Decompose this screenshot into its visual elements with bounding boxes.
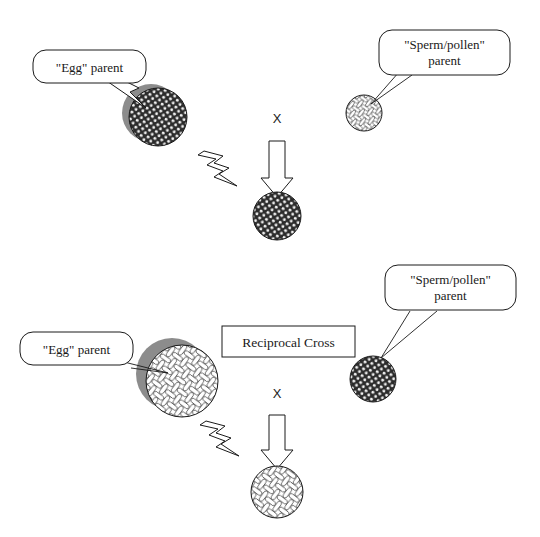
egg-parent-circle-bottom[interactable] <box>146 345 218 417</box>
cross-top: "Egg" parent "Sperm/pollen" parent X <box>33 30 510 240</box>
reciprocal-cross-diagram: "Egg" parent "Sperm/pollen" parent X "Eg… <box>0 0 540 537</box>
offspring-circle-bottom[interactable] <box>251 466 303 518</box>
cross-symbol-bottom: X <box>273 386 282 401</box>
egg-parent-circle-top[interactable] <box>129 88 187 146</box>
sperm-parent-callout-label1-top: "Sperm/pollen" <box>404 37 485 52</box>
sperm-parent-callout-label1-bottom: "Sperm/pollen" <box>410 272 491 287</box>
sperm-parent-callout-label2-top: parent <box>428 53 461 68</box>
offspring-arrow-top <box>261 141 293 197</box>
cross-bottom: "Egg" parent "Sperm/pollen" parent Recip… <box>20 265 516 518</box>
egg-parent-callout-label-bottom: "Egg" parent <box>43 342 111 357</box>
sperm-parent-circle-bottom[interactable] <box>350 356 396 402</box>
sperm-parent-callout-tail-top <box>371 72 412 104</box>
egg-parent-callout-label-top: "Egg" parent <box>56 60 124 75</box>
lightning-bolt-top <box>198 151 237 186</box>
offspring-arrow-bottom <box>261 415 293 469</box>
sperm-parent-callout-tail-bottom <box>381 311 437 358</box>
reciprocal-cross-label: Reciprocal Cross <box>242 335 335 350</box>
cross-symbol-top: X <box>273 111 282 126</box>
sperm-parent-callout-label2-bottom: parent <box>434 288 467 303</box>
offspring-circle-top[interactable] <box>253 192 301 240</box>
lightning-bolt-bottom <box>200 421 239 456</box>
